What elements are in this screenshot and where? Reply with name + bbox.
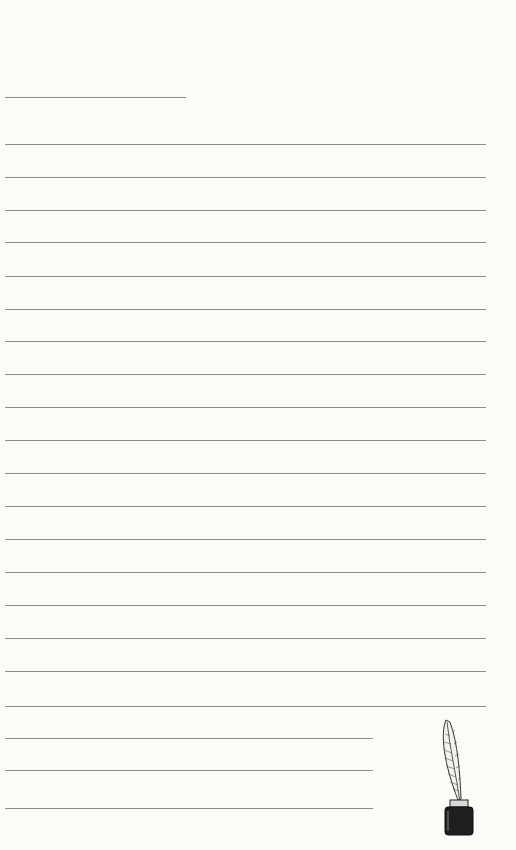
writing-line	[5, 407, 486, 408]
writing-line	[5, 210, 486, 211]
writing-line	[5, 341, 486, 342]
short-writing-line	[5, 738, 373, 739]
quill-inkwell-icon	[436, 714, 480, 842]
writing-line	[5, 706, 486, 707]
writing-line	[5, 276, 486, 277]
short-writing-line	[5, 770, 373, 771]
writing-line	[5, 144, 486, 145]
writing-line	[5, 539, 486, 540]
writing-line	[5, 242, 486, 243]
writing-line	[5, 177, 486, 178]
header-line	[5, 97, 186, 98]
writing-line	[5, 309, 486, 310]
writing-line	[5, 374, 486, 375]
writing-line	[5, 638, 486, 639]
writing-line	[5, 572, 486, 573]
writing-line	[5, 440, 486, 441]
writing-line	[5, 473, 486, 474]
writing-line	[5, 506, 486, 507]
writing-line	[5, 671, 486, 672]
writing-line	[5, 605, 486, 606]
short-writing-line	[5, 808, 373, 809]
